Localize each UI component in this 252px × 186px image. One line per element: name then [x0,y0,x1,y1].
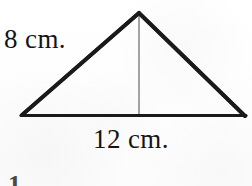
partial-cropped-number: 1 [8,172,21,186]
base-length-label: 12 cm. [93,126,169,153]
geometry-figure: 8 cm. 12 cm. 1 [0,0,252,186]
side-length-label: 8 cm. [4,26,66,53]
